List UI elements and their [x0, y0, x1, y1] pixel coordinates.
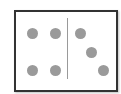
right-pip-icon — [98, 65, 109, 76]
left-pip-icon — [50, 28, 61, 39]
domino-divider — [67, 18, 68, 79]
right-pip-icon — [75, 28, 86, 39]
left-pip-icon — [50, 65, 61, 76]
domino-tile — [14, 10, 118, 92]
left-pip-icon — [27, 65, 38, 76]
right-pip-icon — [86, 47, 97, 58]
left-pip-icon — [27, 28, 38, 39]
